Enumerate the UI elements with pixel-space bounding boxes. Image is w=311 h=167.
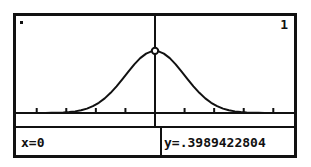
calculator-screenshot: 1 x=0 y=.3989422804 xyxy=(0,0,311,167)
graph-canvas xyxy=(16,16,294,126)
trace-cursor-marker xyxy=(152,48,158,54)
status-bar: x=0 y=.3989422804 xyxy=(16,128,294,155)
graph-plot-area[interactable] xyxy=(16,16,294,126)
status-trace-divider xyxy=(160,128,162,155)
calculator-lcd-screen[interactable]: 1 x=0 y=.3989422804 xyxy=(13,13,297,158)
status-x-readout: x=0 xyxy=(21,135,44,150)
lcd-inner-area: 1 x=0 y=.3989422804 xyxy=(16,16,294,155)
status-y-readout: y=.3989422804 xyxy=(164,135,266,150)
